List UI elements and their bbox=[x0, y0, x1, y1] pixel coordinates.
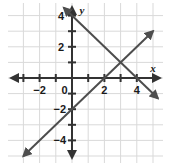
x-tick-label-2: 2 bbox=[101, 84, 107, 96]
x-tick-label-4: 4 bbox=[134, 84, 141, 96]
x-tick-label-0: 0 bbox=[61, 84, 67, 96]
coordinate-graph-figure: −2 0 2 4 4 2 −2 −4 x y bbox=[0, 0, 171, 166]
y-tick-label-neg2: −2 bbox=[53, 103, 66, 115]
coordinate-plane-svg: −2 0 2 4 4 2 −2 −4 x y bbox=[0, 0, 171, 166]
y-axis-label: y bbox=[78, 4, 85, 16]
y-tick-label-2: 2 bbox=[58, 41, 64, 53]
x-tick-label-neg2: −2 bbox=[33, 84, 46, 96]
y-tick-label-4: 4 bbox=[58, 10, 65, 22]
y-tick-label-neg4: −4 bbox=[53, 134, 66, 146]
plot-background bbox=[8, 3, 163, 163]
x-axis-label: x bbox=[149, 62, 156, 74]
